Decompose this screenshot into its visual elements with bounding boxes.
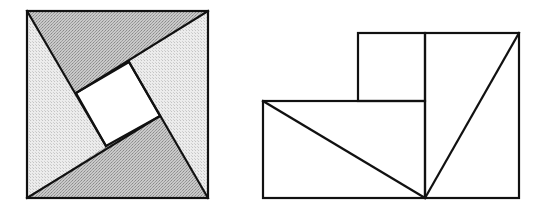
rearranged-figure	[263, 33, 519, 198]
diagram-canvas	[0, 0, 546, 209]
pinwheel-square-figure	[27, 11, 208, 198]
dark-rect-diagonal	[263, 101, 425, 198]
white-square	[358, 33, 425, 101]
diagram-svg	[0, 0, 546, 209]
light-rect-diagonal	[425, 33, 519, 198]
